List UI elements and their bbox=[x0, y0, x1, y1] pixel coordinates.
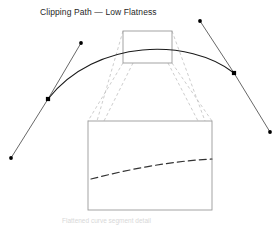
right-anchor-out-line bbox=[200, 21, 234, 73]
connector-inner-right bbox=[172, 31, 205, 121]
control-handle-lines bbox=[11, 21, 270, 158]
connector-outer-right bbox=[172, 63, 212, 121]
zoom-region bbox=[123, 31, 172, 63]
anchor-and-handle-points bbox=[9, 19, 272, 160]
figure-caption: Flattened curve segment detail bbox=[62, 217, 151, 224]
lower-left-handle-dot bbox=[9, 156, 13, 160]
right-anchor-in-line bbox=[234, 73, 270, 132]
connector-inner-left bbox=[97, 31, 123, 121]
bezier-clipping-path bbox=[48, 49, 234, 99]
left-anchor-out-line bbox=[48, 43, 81, 99]
figure-canvas: Clipping Path — Low Flatness Flattened c… bbox=[0, 0, 280, 225]
connector-mid-right bbox=[168, 63, 198, 121]
upper-left-handle-dot bbox=[79, 41, 83, 45]
connector-mid-left bbox=[104, 63, 133, 121]
right-anchor-square bbox=[232, 71, 236, 75]
zoom-connector-lines bbox=[88, 31, 212, 121]
clipping-path-diagram bbox=[0, 0, 280, 225]
flattened-curve-detail bbox=[91, 159, 212, 179]
upper-right-handle-dot bbox=[198, 19, 202, 23]
left-anchor-in-line bbox=[11, 99, 48, 158]
left-anchor-square bbox=[46, 97, 50, 101]
detail-view bbox=[88, 121, 212, 210]
lower-right-handle-dot bbox=[268, 130, 272, 134]
curve-paths bbox=[48, 49, 234, 179]
